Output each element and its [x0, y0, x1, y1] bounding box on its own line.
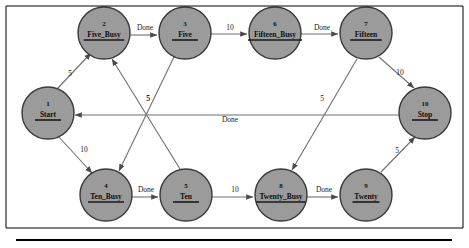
- node-id: 5: [184, 182, 188, 190]
- node-label: Ten_Busy: [90, 192, 122, 201]
- node-5-ten[interactable]: 5Ten: [160, 169, 212, 221]
- edge-1-to-4: [58, 136, 92, 173]
- node-label: Five_Busy: [87, 30, 121, 39]
- edge-label-1-2: 5: [68, 69, 72, 78]
- node-1-start[interactable]: 1Start: [22, 87, 74, 139]
- node-10-stop[interactable]: 10Stop: [399, 87, 451, 139]
- edge-label-1-4: 10: [80, 145, 88, 154]
- node-2-five-busy[interactable]: 2Five_Busy: [78, 7, 130, 59]
- node-label: Twenty: [354, 192, 378, 201]
- node-3-five[interactable]: 3Five: [159, 7, 211, 59]
- state-diagram: 1Start2Five_Busy3Five4Ten_Busy5Ten6Fifte…: [0, 0, 469, 248]
- edge-label-7-10: 10: [396, 68, 404, 77]
- node-label: Fifteen: [355, 30, 378, 39]
- node-4-ten-busy[interactable]: 4Ten_Busy: [80, 169, 132, 221]
- node-label: Stop: [418, 110, 433, 119]
- edge-label-5-2: 5: [146, 94, 150, 103]
- node-id: 3: [183, 20, 187, 28]
- node-9-twenty[interactable]: 9Twenty: [340, 169, 392, 221]
- edge-label-6-7: Done: [314, 23, 331, 32]
- edge-5-to-2: [112, 59, 180, 169]
- node-id: 6: [273, 20, 277, 28]
- edge-label-8-9: Done: [316, 185, 333, 194]
- node-id: 9: [364, 182, 368, 190]
- diagram-canvas: 1Start2Five_Busy3Five4Ten_Busy5Ten6Fifte…: [0, 0, 469, 248]
- edge-label-2-3: Done: [137, 23, 154, 32]
- edge-label-10-1: Done: [222, 115, 239, 124]
- node-6-fifteen-busy[interactable]: 6Fifteen_Busy: [248, 7, 302, 59]
- edge-label-4-5: Done: [138, 185, 155, 194]
- node-id: 10: [422, 100, 430, 108]
- node-id: 7: [364, 20, 368, 28]
- edge-label-9-10: 5: [395, 146, 399, 155]
- node-id: 8: [279, 182, 283, 190]
- node-id: 1: [46, 100, 50, 108]
- node-label: Ten: [180, 192, 193, 201]
- edge-1-to-2: [57, 53, 91, 89]
- edge-label-5-8: 10: [231, 185, 239, 194]
- node-label: Twenty_Busy: [259, 192, 302, 201]
- node-label: Fifteen_Busy: [254, 30, 296, 39]
- node-7-fifteen[interactable]: 7Fifteen: [340, 7, 392, 59]
- edge-label-7-8: 5: [320, 94, 324, 103]
- node-label: Start: [40, 110, 57, 119]
- node-label: Five: [178, 30, 192, 39]
- node-id: 4: [104, 182, 108, 190]
- node-8-twenty-busy[interactable]: 8Twenty_Busy: [255, 169, 307, 221]
- edge-label-3-6: 10: [226, 23, 234, 32]
- node-id: 2: [102, 20, 106, 28]
